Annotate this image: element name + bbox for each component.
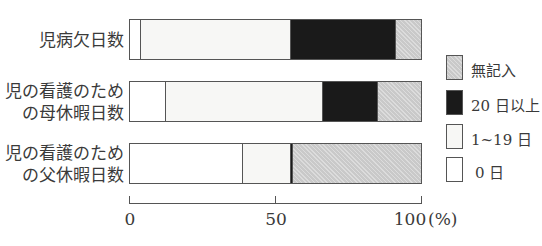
category-label-text: 児病欠日数 — [39, 30, 124, 50]
segment-0-days — [130, 144, 242, 183]
segment-no-entry — [395, 20, 421, 59]
segment-20-plus-days — [322, 82, 377, 121]
category-label-line1: 児の看護のため — [5, 142, 124, 164]
legend-swatch-no-entry — [446, 55, 463, 80]
category-label-line2: の母休暇日数 — [5, 102, 124, 124]
category-label-line2: の父休暇日数 — [5, 164, 124, 186]
bar-sick-days — [129, 19, 422, 60]
legend-swatch-0 — [446, 157, 463, 182]
segment-1-19-days — [140, 20, 290, 59]
x-tick-0 — [129, 196, 130, 204]
bar-mother-leave — [129, 81, 422, 122]
legend-label-0: 0 日 — [475, 161, 504, 182]
legend-label-no-entry: 無記入 — [471, 59, 516, 80]
x-tick-50 — [275, 196, 276, 204]
legend-swatch-20-plus — [446, 90, 463, 115]
segment-20-plus-days — [290, 20, 395, 59]
x-tick-100 — [421, 196, 422, 204]
legend-swatch-1-19 — [446, 124, 463, 149]
segment-no-entry — [377, 82, 421, 121]
x-tick-label-100: 100 — [394, 209, 426, 229]
segment-no-entry — [292, 144, 421, 183]
x-tick-label-0: 0 — [125, 209, 136, 229]
category-label-sick-days: 児病欠日数 — [39, 29, 124, 51]
category-label-mother-leave: 児の看護のため の母休暇日数 — [5, 80, 124, 124]
x-tick-label-50: 50 — [265, 209, 287, 229]
segment-1-19-days — [242, 144, 290, 183]
bar-father-leave — [129, 143, 422, 184]
legend-label-20-plus: 20 日以上 — [471, 94, 540, 115]
segment-0-days — [130, 20, 140, 59]
segment-1-19-days — [165, 82, 322, 121]
category-label-father-leave: 児の看護のため の父休暇日数 — [5, 142, 124, 186]
category-label-line1: 児の看護のため — [5, 80, 124, 102]
legend-label-1-19: 1~19 日 — [471, 128, 532, 149]
segment-0-days — [130, 82, 165, 121]
x-unit-label: (%) — [428, 209, 457, 229]
